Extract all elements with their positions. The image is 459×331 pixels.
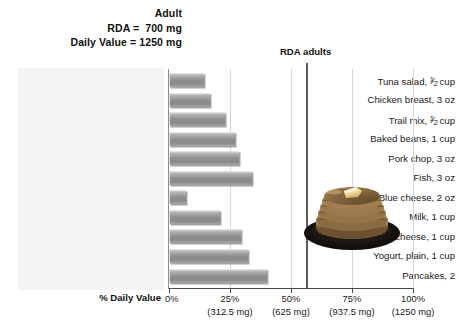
fraction-one-half: 1⁄2 [430, 75, 437, 86]
x-tick-label-0: 0% [165, 293, 179, 304]
bar [169, 190, 186, 204]
gridline [413, 69, 414, 289]
x-tick-label-mg: (937.5 mg) [329, 306, 374, 317]
pancakes-photo [300, 178, 404, 254]
fraction-one-half: 1⁄2 [430, 114, 437, 125]
bar [169, 73, 204, 87]
chart-figure: Adult RDA = 700 mg Daily Value = 1250 mg… [0, 0, 459, 331]
x-tick-label-mg: (625 mg) [272, 306, 310, 317]
gridline [291, 69, 292, 289]
bar [169, 132, 235, 146]
bar [169, 151, 239, 165]
header-line-daily-value: Daily Value = 1250 mg [0, 35, 182, 50]
x-tick-label-mg: (1250 mg) [392, 306, 435, 317]
category-label-panel [18, 68, 164, 290]
x-tick-label-percent: 50% [282, 293, 301, 304]
x-tick-label-mg: (312.5 mg) [207, 306, 252, 317]
x-axis-title: % Daily Value [83, 292, 161, 303]
bar [169, 112, 225, 126]
x-tick-label-percent: 25% [221, 293, 240, 304]
bar [169, 229, 241, 243]
bar [169, 269, 267, 283]
x-tick-label-percent: 75% [343, 293, 362, 304]
header-line-rda: RDA = 700 mg [0, 21, 182, 36]
bar [169, 210, 220, 224]
bar [169, 93, 210, 107]
bar [169, 249, 248, 263]
bar [169, 171, 252, 185]
chart-header: Adult RDA = 700 mg Daily Value = 1250 mg [0, 6, 182, 50]
x-tick-label-percent: 100% [401, 293, 425, 304]
header-line-adult: Adult [0, 6, 182, 21]
rda-reference-line [306, 63, 308, 289]
rda-reference-label: RDA adults [280, 46, 331, 57]
